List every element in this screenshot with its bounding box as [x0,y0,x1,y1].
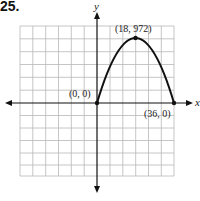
point-right-intercept [172,101,176,105]
point-vertex [133,36,137,40]
x-axis-label: x [194,96,200,108]
label-vertex: (18, 972) [115,23,152,35]
y-axis-label: y [93,0,99,12]
point-origin [95,101,99,105]
label-origin: (0, 0) [69,88,91,100]
label-right-intercept: (36, 0) [144,108,171,120]
graph: x y (0, 0) (18, 972) (36, 0) [0,0,200,201]
